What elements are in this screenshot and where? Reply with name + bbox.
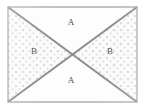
region-label-b-right: B <box>103 47 117 56</box>
region-label-a-top: A <box>64 18 78 27</box>
region-label-b-left: B <box>27 47 41 56</box>
figure-root: A B B A <box>0 0 145 110</box>
region-label-a-bottom: A <box>64 76 78 85</box>
